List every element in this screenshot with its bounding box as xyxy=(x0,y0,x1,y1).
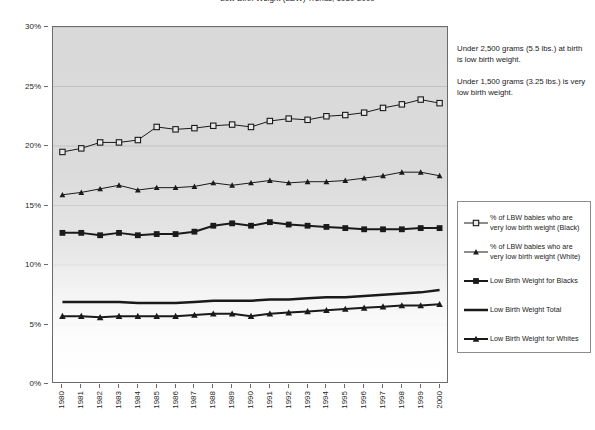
legend-item-label: % of LBW babies who are very low birth w… xyxy=(490,213,586,232)
annotation-low-birth-weight: Under 2,500 grams (5.5 lbs.) at birth is… xyxy=(457,43,589,66)
x-axis-tick-mark xyxy=(80,384,81,388)
y-axis-tick-label: 10% xyxy=(25,260,41,269)
y-axis-tick-mark xyxy=(44,26,48,27)
triangle-small-line-icon xyxy=(462,245,490,259)
series-line xyxy=(60,219,443,238)
legend-item-label: Low Birth Weight Total xyxy=(490,305,561,315)
legend: % of LBW babies who are very low birth w… xyxy=(457,201,591,353)
x-axis-tick-mark xyxy=(420,384,421,388)
y-axis-tick-label: 30% xyxy=(25,22,41,31)
x-axis-tick-label: 1994 xyxy=(321,391,330,409)
plot-area xyxy=(52,26,448,383)
legend-item[interactable]: Low Birth Weight Total xyxy=(462,295,586,324)
x-axis-tick-label: 1999 xyxy=(416,391,425,409)
legend-item-label: Low Birth Weight for Whites xyxy=(490,334,579,344)
x-axis-tick-label: 1989 xyxy=(227,391,236,409)
x-axis-tick-mark xyxy=(382,384,383,388)
y-axis-tick-mark xyxy=(44,383,48,384)
x-axis-tick-label: 2000 xyxy=(435,391,444,409)
x-axis-tick-label: 1990 xyxy=(246,391,255,409)
x-axis-tick-label: 1983 xyxy=(114,391,123,409)
series-line xyxy=(60,97,443,155)
legend-item-label: % of LBW babies who are very low birth w… xyxy=(490,242,586,261)
y-axis-tick-label: 20% xyxy=(25,141,41,150)
square-open-line-icon xyxy=(462,216,490,230)
x-axis-tick-mark xyxy=(363,384,364,388)
x-axis-tick-label: 1984 xyxy=(133,391,142,409)
y-axis-tick-mark xyxy=(44,145,48,146)
x-axis-tick-mark xyxy=(231,384,232,388)
x-axis-tick-mark xyxy=(212,384,213,388)
x-axis-tick-label: 1997 xyxy=(378,391,387,409)
series-line xyxy=(59,301,443,320)
x-axis-tick-label: 1986 xyxy=(171,391,180,409)
series-line xyxy=(62,290,439,303)
x-axis-tick-label: 1982 xyxy=(95,391,104,409)
x-axis-tick-mark xyxy=(307,384,308,388)
chart-title: Low Birth Weight (LBW) Trends, 1980-2000 xyxy=(0,0,595,3)
x-axis-tick-mark xyxy=(439,384,440,388)
y-axis-tick-mark xyxy=(44,324,48,325)
series-line xyxy=(60,169,443,197)
y-axis-tick-mark xyxy=(44,86,48,87)
plain-line-icon xyxy=(462,303,490,317)
x-axis-tick-label: 1998 xyxy=(397,391,406,409)
triangle-filled-line-icon xyxy=(462,332,490,346)
chart-title-clipped: Low Birth Weight (LBW) Trends, 1980-2000 xyxy=(0,0,595,9)
y-axis-tick-label: 15% xyxy=(25,200,41,209)
legend-item[interactable]: Low Birth Weight for Blacks xyxy=(462,266,586,295)
x-axis-tick-mark xyxy=(344,384,345,388)
x-axis-tick-label: 1991 xyxy=(265,391,274,409)
x-axis-tick-label: 1980 xyxy=(57,391,66,409)
square-filled-line-icon xyxy=(462,274,490,288)
annotation-block: Under 2,500 grams (5.5 lbs.) at birth is… xyxy=(457,43,589,108)
x-axis-tick-mark xyxy=(99,384,100,388)
y-axis-tick-mark xyxy=(44,205,48,206)
y-axis-tick-label: 25% xyxy=(25,81,41,90)
x-axis-tick-mark xyxy=(269,384,270,388)
legend-item[interactable]: % of LBW babies who are very low birth w… xyxy=(462,237,586,266)
x-axis-tick-label: 1981 xyxy=(76,391,85,409)
x-axis-tick-mark xyxy=(193,384,194,388)
x-axis-tick-label: 1985 xyxy=(152,391,161,409)
x-axis-tick-mark xyxy=(250,384,251,388)
chart-canvas: Low Birth Weight (LBW) Trends, 1980-2000… xyxy=(0,0,595,430)
series-layer xyxy=(53,27,448,383)
y-axis-tick-mark xyxy=(44,264,48,265)
annotation-very-low-birth-weight: Under 1,500 grams (3.25 lbs.) is very lo… xyxy=(457,76,589,99)
legend-item-label: Low Birth Weight for Blacks xyxy=(490,276,578,286)
y-axis-tick-label: 0% xyxy=(29,379,41,388)
x-axis-tick-mark xyxy=(118,384,119,388)
x-axis-tick-mark xyxy=(401,384,402,388)
x-axis-tick-label: 1987 xyxy=(189,391,198,409)
x-axis-tick-label: 1993 xyxy=(303,391,312,409)
x-axis-tick-mark xyxy=(175,384,176,388)
y-axis-tick-label: 5% xyxy=(29,319,41,328)
legend-item[interactable]: % of LBW babies who are very low birth w… xyxy=(462,208,586,237)
x-axis-tick-mark xyxy=(288,384,289,388)
x-axis-tick-mark xyxy=(137,384,138,388)
x-axis-tick-label: 1996 xyxy=(359,391,368,409)
x-axis: 1980198119821983198419851986198719881989… xyxy=(52,384,448,430)
y-axis: 0%5%10%15%20%25%30% xyxy=(0,26,48,383)
x-axis-tick-label: 1992 xyxy=(284,391,293,409)
x-axis-tick-label: 1988 xyxy=(208,391,217,409)
x-axis-tick-mark xyxy=(61,384,62,388)
x-axis-tick-mark xyxy=(325,384,326,388)
x-axis-tick-mark xyxy=(156,384,157,388)
x-axis-tick-label: 1995 xyxy=(340,391,349,409)
legend-item[interactable]: Low Birth Weight for Whites xyxy=(462,324,586,353)
